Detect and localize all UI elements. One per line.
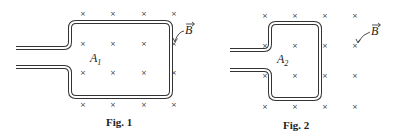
figure-2: ×××××××××××××××× A2 B Fig. 2 <box>230 12 381 132</box>
field-cross-icon: × <box>352 12 358 20</box>
field-cross-icon: × <box>322 42 328 50</box>
field-cross-icon: × <box>141 101 147 109</box>
figure-1: ×××××××××××××××× A1 B Fig. 1 <box>16 10 195 129</box>
figure-caption-2: Fig. 2 <box>283 119 310 131</box>
field-cross-icon: × <box>352 42 358 50</box>
area-label-a1: A1 <box>89 51 101 67</box>
field-cross-icon: × <box>292 42 298 50</box>
field-cross-icon: × <box>110 101 116 109</box>
field-cross-icon: × <box>322 103 328 111</box>
magnetic-flux-diagram: ×××××××××××××××× A1 B Fig. 1 ×××××××××××… <box>0 0 393 135</box>
field-cross-icon: × <box>262 103 268 111</box>
field-cross-icon: × <box>171 10 177 18</box>
field-cross-icon: × <box>322 12 328 20</box>
field-cross-icon: × <box>110 10 116 18</box>
field-cross-icon: × <box>141 10 147 18</box>
field-cross-icon: × <box>80 101 86 109</box>
field-cross-icon: × <box>292 103 298 111</box>
field-label-b-fig2: B <box>356 23 381 43</box>
field-cross-icon: × <box>141 69 147 77</box>
field-cross-icon: × <box>110 40 116 48</box>
wire-inner <box>230 23 320 99</box>
area-label-a2: A2 <box>276 52 288 68</box>
field-cross-icon: × <box>352 72 358 80</box>
field-cross-icon: × <box>141 40 147 48</box>
field-cross-icon: × <box>292 72 298 80</box>
field-cross-icon: × <box>262 12 268 20</box>
field-cross-icon: × <box>80 10 86 18</box>
svg-text:B: B <box>371 24 379 38</box>
field-cross-icon: × <box>80 69 86 77</box>
field-cross-icon: × <box>292 12 298 20</box>
field-cross-icon: × <box>352 103 358 111</box>
field-cross-icon: × <box>322 72 328 80</box>
svg-text:B: B <box>185 23 193 37</box>
field-cross-icon: × <box>171 101 177 109</box>
field-cross-icon: × <box>80 40 86 48</box>
wire-loop-fig2 <box>230 23 320 99</box>
field-cross-icon: × <box>110 69 116 77</box>
figure-caption-1: Fig. 1 <box>106 116 132 128</box>
wire-outline <box>230 23 320 99</box>
